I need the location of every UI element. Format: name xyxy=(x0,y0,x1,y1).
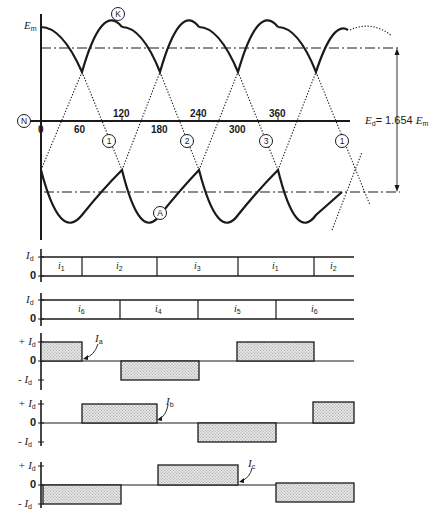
ed-arrow-up-icon xyxy=(395,48,400,55)
tick-label-180: 180 xyxy=(151,125,168,135)
ia-plus-label: + Id xyxy=(18,336,36,348)
positive-strip-level-label: Id xyxy=(26,250,34,262)
segment-label-i3: i3 xyxy=(194,261,201,272)
ic-pulse xyxy=(276,483,354,502)
ib-pulse xyxy=(82,404,157,423)
ib-plus-label: + Id xyxy=(18,398,36,410)
segment-label-i2: i2 xyxy=(116,261,123,272)
segment-label-i2b: i2 xyxy=(330,261,337,272)
tick-label-360: 360 xyxy=(269,109,286,119)
phase-marker-3: 3 xyxy=(259,134,273,148)
tick-label-60: 60 xyxy=(74,125,85,135)
em-label: Em xyxy=(24,20,37,32)
ia-minus-label: - Id xyxy=(18,374,32,386)
ic-plot xyxy=(38,462,354,508)
phase-marker-1b: 1 xyxy=(335,134,349,148)
ic-pulse xyxy=(43,485,121,504)
segment-label-i1: i1 xyxy=(58,261,65,272)
segment-label-i5: i5 xyxy=(234,304,241,315)
ia-pulse xyxy=(237,342,314,361)
ic-pulse xyxy=(158,465,238,485)
ic-name-label: Ic xyxy=(248,458,255,470)
ib-zero-label: 0 xyxy=(30,417,36,428)
neutral-marker: N xyxy=(17,114,31,128)
negative-strip-zero-label: 0 xyxy=(30,313,36,324)
segment-label-i6: i6 xyxy=(78,304,85,315)
waveform-diagram xyxy=(0,0,444,527)
ic-minus-label: - Id xyxy=(18,498,32,510)
segment-label-i6b: i6 xyxy=(311,304,318,315)
positive-envelope-curve xyxy=(41,20,348,72)
ed-label: Ed= 1.654 Em xyxy=(365,115,428,127)
negative-group-strip xyxy=(38,293,354,326)
ib-minus-label: - Id xyxy=(18,436,32,448)
ic-zero-label: 0 xyxy=(30,479,36,490)
ed-arrow-down-icon xyxy=(395,185,400,192)
ia-pulse xyxy=(121,361,199,380)
ia-zero-label: 0 xyxy=(30,355,36,366)
a-curve-marker: A xyxy=(153,206,167,220)
negative-strip-level-label: Id xyxy=(26,294,34,306)
segment-label-i1b: i1 xyxy=(272,261,279,272)
ia-name-label: Ia xyxy=(95,333,103,345)
ia-plot xyxy=(38,333,354,390)
tick-label-300: 300 xyxy=(229,125,246,135)
ia-pulse xyxy=(41,342,82,361)
voltage-plot xyxy=(30,14,400,240)
ic-plus-label: + Id xyxy=(18,460,36,472)
ib-plot xyxy=(38,400,354,446)
tick-label-120: 120 xyxy=(113,109,130,119)
k-curve-marker: K xyxy=(111,7,125,21)
ib-pulse xyxy=(313,402,354,423)
phase-marker-1: 1 xyxy=(102,134,116,148)
tick-label-240: 240 xyxy=(190,109,207,119)
positive-strip-zero-label: 0 xyxy=(30,270,36,281)
ib-name-label: Ib xyxy=(166,396,174,408)
ib-pulse xyxy=(198,423,276,442)
negative-envelope-curve xyxy=(41,170,342,223)
segment-label-i4: i4 xyxy=(155,304,162,315)
tick-label-0: 0 xyxy=(38,125,44,135)
phase-marker-2: 2 xyxy=(180,134,194,148)
